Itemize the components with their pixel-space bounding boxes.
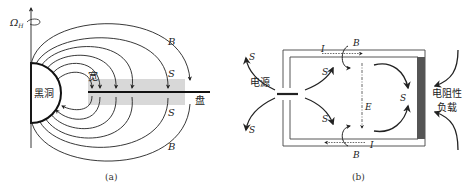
gap-label: 宽 (88, 70, 98, 82)
b-label-top: B (352, 38, 360, 48)
current-label-bottom: I (369, 140, 374, 150)
field-label-s-bottom: S (168, 107, 175, 118)
panel-a: ΩH 黑洞 宽 盘 B S S B (a) (9, 8, 210, 182)
disc-label: 盘 (195, 94, 205, 106)
load-label-line1: 电阻性 (432, 87, 462, 99)
caption-a: (a) (105, 172, 117, 182)
field-label-s-top: S (168, 68, 175, 79)
figure: ΩH 黑洞 宽 盘 B S S B (a) (0, 0, 473, 192)
black-hole-label: 黑洞 (34, 88, 54, 99)
b-loop-bottom (342, 126, 350, 146)
s-label-top-left: S (249, 52, 255, 62)
caption-b: (b) (352, 172, 365, 182)
source-label: 电源 (250, 76, 270, 88)
s-label-inner-top: S (322, 67, 328, 77)
s-label-inner-bottom: S (322, 114, 328, 124)
panel-b: 电源 电阻性 负载 I I B B E S S S S S (b) (246, 38, 462, 182)
rotation-arrow-icon (27, 19, 40, 25)
b-label-bottom: B (352, 150, 360, 160)
efield-label: E (364, 102, 372, 112)
field-label-b-bottom: B (167, 141, 175, 152)
field-label-b-top: B (167, 36, 175, 47)
axis-label: ΩH (9, 17, 24, 29)
s-label-bottom-left: S (249, 125, 255, 135)
current-label-top: I (320, 44, 325, 54)
load-label-line2: 负载 (437, 101, 457, 113)
resistive-load (417, 57, 425, 139)
poynting-arrows (246, 50, 458, 150)
s-label-load: S (400, 93, 406, 103)
